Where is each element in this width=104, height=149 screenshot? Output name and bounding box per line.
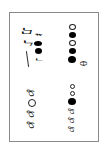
- notation-group-bottom-left: ℘ ℘ ℘: [28, 87, 36, 130]
- filled-note: [69, 32, 76, 38]
- quarter-note-symbol: ♩: [34, 57, 43, 61]
- filled-note: [69, 48, 76, 54]
- curl-symbol: ℘: [27, 89, 38, 97]
- curl-symbol: ℘: [68, 126, 77, 132]
- notation-group-top-left-2: 𝄽 ♩: [34, 29, 42, 64]
- theta-symbol: θ: [78, 61, 87, 66]
- hollow-note: [69, 24, 76, 30]
- rest-symbol: 𝄽: [33, 33, 44, 36]
- curl-symbol: ℘: [68, 108, 77, 114]
- notation-group-top-left: ♫ ♪: [22, 25, 33, 67]
- hollow-note: [69, 40, 76, 46]
- curl-symbol: ℘: [27, 110, 38, 118]
- page-frame: ♫ ♪ 𝄽 ♩ θ ℘ ℘ ℘ ℘ ℘ ℘: [9, 12, 99, 142]
- theta-mark: θ: [80, 59, 85, 68]
- filled-note: [68, 56, 76, 63]
- eighth-note-symbol: ♪: [21, 39, 33, 47]
- notation-group-bottom-right: ℘ ℘ ℘: [68, 83, 76, 133]
- curl-symbol: ℘: [68, 117, 77, 123]
- filled-note: [35, 48, 42, 54]
- notation-group-top-right: [68, 23, 76, 64]
- long-stem-mark: [26, 51, 29, 67]
- hollow-note: [70, 84, 75, 89]
- curl-symbol: ℘: [27, 121, 38, 129]
- hollow-note: [70, 91, 75, 96]
- hollow-note: [28, 99, 36, 107]
- filled-note: [34, 41, 42, 46]
- filled-note: [68, 98, 76, 105]
